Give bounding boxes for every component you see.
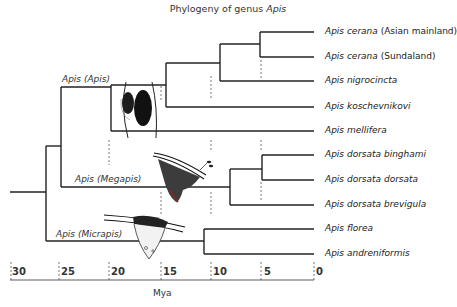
leaf-label: Apis mellifera [325,125,387,135]
cavity-nest-illustration [121,82,157,138]
clade-label-micrapis: Apis (Micrapis) [56,229,122,239]
leaf-label: Apis dorsata brevigula [325,199,426,209]
leaf-label: Apis andreniformis [325,248,410,258]
leaf-label: Apis koschevnikovi [325,101,411,111]
x-axis-label: Mya [153,288,172,298]
leaf-label: Apis dorsata dorsata [325,174,418,184]
open-comb-nest-illustration [153,153,213,202]
axis-tick-label: 30 [12,266,26,277]
clade-label-megapis: Apis (Megapis) [75,174,141,184]
axis-tick-label: 0 [316,266,323,277]
axis-tick-label: 20 [111,266,125,277]
axis-tick-label: 25 [61,266,75,277]
axis-tick-label: 5 [264,266,271,277]
axis-tick-label: 15 [163,266,177,277]
axis-tick-label: 10 [213,266,227,277]
leaf-label: Apis nigrocincta [325,75,397,85]
leaf-label: Apis cerana (Asian mainland) [325,26,457,36]
leaf-label: Apis dorsata binghami [325,149,426,159]
leaf-label: Apis cerana (Sundaland) [325,51,436,61]
leaf-label: Apis florea [325,223,373,233]
clade-label-apis: Apis (Apis) [62,74,110,84]
